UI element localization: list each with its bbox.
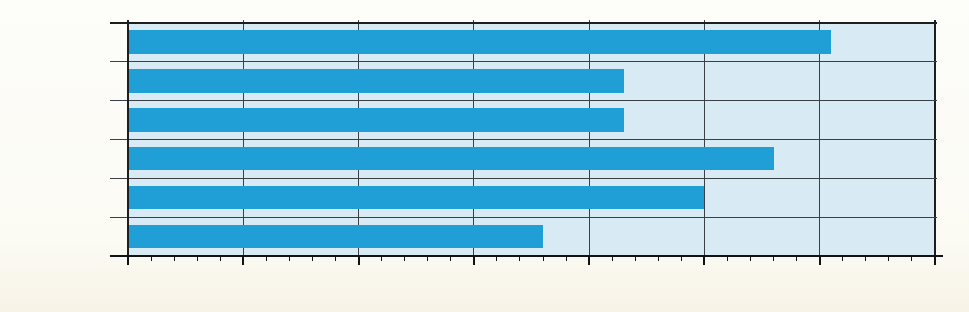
x-major-tick xyxy=(473,256,475,265)
x-minor-tick xyxy=(911,256,912,261)
x-minor-tick xyxy=(888,256,889,261)
x-minor-tick xyxy=(773,256,774,261)
vertical-gridline xyxy=(473,20,474,256)
x-minor-tick xyxy=(197,256,198,261)
x-major-tick xyxy=(819,256,821,265)
x-minor-tick xyxy=(566,256,567,261)
bar-1985 xyxy=(129,225,543,249)
x-minor-tick xyxy=(335,256,336,261)
x-minor-tick xyxy=(427,256,428,261)
row-separator-line xyxy=(110,139,937,140)
vertical-gridline xyxy=(819,20,820,256)
x-major-tick xyxy=(934,256,936,265)
vertical-gridline xyxy=(704,20,705,256)
row-separator-line xyxy=(110,217,937,218)
bar-1988 xyxy=(129,108,624,132)
x-minor-tick xyxy=(612,256,613,261)
row-separator-line xyxy=(110,100,937,101)
x-minor-tick xyxy=(519,256,520,261)
horizontal-bar-chart xyxy=(0,0,969,312)
x-minor-tick xyxy=(450,256,451,261)
x-minor-tick xyxy=(681,256,682,261)
x-minor-tick xyxy=(796,256,797,261)
bar-1987 xyxy=(129,147,774,171)
plot-right-border xyxy=(934,20,936,256)
bar-1990 xyxy=(129,30,831,54)
bar-1989 xyxy=(129,69,624,93)
bar-1986 xyxy=(129,186,704,210)
x-minor-tick xyxy=(151,256,152,261)
plot-top-border xyxy=(110,22,937,24)
x-minor-tick xyxy=(635,256,636,261)
x-minor-tick xyxy=(174,256,175,261)
x-minor-tick xyxy=(658,256,659,261)
x-minor-tick xyxy=(266,256,267,261)
y-axis-line xyxy=(127,20,130,256)
x-minor-tick xyxy=(727,256,728,261)
x-major-tick xyxy=(127,256,129,265)
x-minor-tick xyxy=(543,256,544,261)
vertical-gridline xyxy=(358,20,359,256)
x-minor-tick xyxy=(865,256,866,261)
vertical-gridline xyxy=(589,20,590,256)
x-major-tick xyxy=(358,256,360,265)
x-minor-tick xyxy=(220,256,221,261)
vertical-gridline xyxy=(243,20,244,256)
row-separator-line xyxy=(110,178,937,179)
x-minor-tick xyxy=(404,256,405,261)
x-minor-tick xyxy=(750,256,751,261)
x-minor-tick xyxy=(289,256,290,261)
x-major-tick xyxy=(703,256,705,265)
x-major-tick xyxy=(242,256,244,265)
x-minor-tick xyxy=(496,256,497,261)
x-major-tick xyxy=(588,256,590,265)
x-minor-tick xyxy=(381,256,382,261)
x-minor-tick xyxy=(842,256,843,261)
x-minor-tick xyxy=(312,256,313,261)
row-separator-line xyxy=(110,61,937,62)
